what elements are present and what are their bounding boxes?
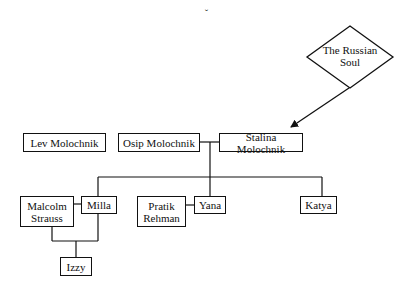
- influence-arrow: [291, 88, 349, 127]
- concept-the-russian-soul: The Russian Soul: [307, 44, 393, 68]
- pratik-line1: Pratik: [148, 200, 174, 212]
- pratik-line2: Rehman: [143, 212, 180, 224]
- person-yana: Yana: [194, 196, 226, 214]
- person-osip-molochnik: Osip Molochnik: [118, 133, 200, 152]
- malcolm-line1: Malcolm: [27, 200, 67, 212]
- concept-label-line2: Soul: [307, 56, 393, 68]
- malcolm-line2: Strauss: [31, 212, 63, 224]
- concept-label-line1: The Russian: [307, 44, 393, 56]
- person-milla: Milla: [81, 196, 117, 214]
- person-lev-molochnik: Lev Molochnik: [23, 133, 106, 152]
- person-stalina-molochnik: Stalina Molochnik: [219, 133, 303, 152]
- person-izzy: Izzy: [60, 257, 92, 276]
- person-katya: Katya: [300, 196, 337, 214]
- person-malcolm-strauss: Malcolm Strauss: [20, 196, 74, 227]
- person-pratik-rehman: Pratik Rehman: [137, 196, 186, 227]
